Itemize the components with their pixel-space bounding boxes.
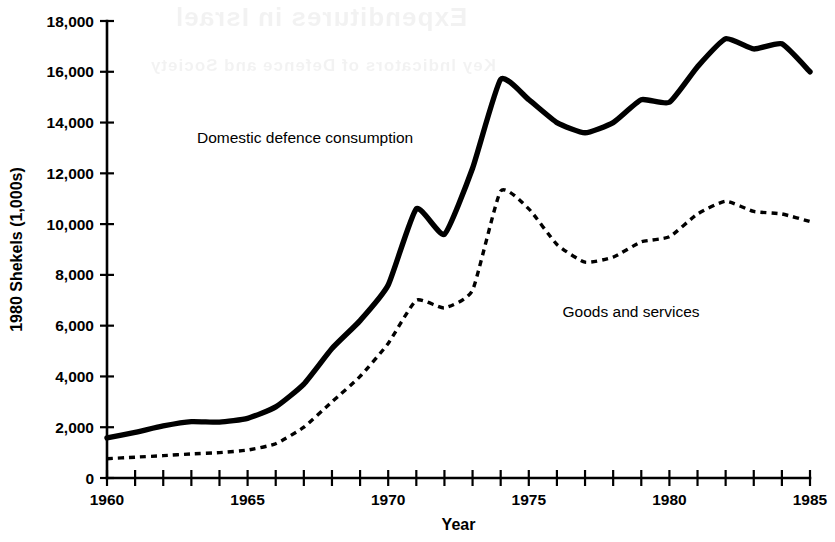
y-axis-tick-label: 12,000 [47,165,94,182]
x-axis: 196019651970197519801985 [90,470,828,508]
y-axis-tick-label: 18,000 [47,13,94,30]
line-chart-plot: 02,0004,0006,0008,00010,00012,00014,0001… [0,0,835,542]
y-axis-tick-label: 14,000 [47,114,94,131]
series-line-goods-and-services [107,190,810,459]
data-series-group [107,39,810,459]
x-axis-tick-label: 1960 [90,491,124,508]
y-axis-tick-label: 0 [85,470,94,487]
y-axis-tick-label: 10,000 [47,216,94,233]
x-axis-tick-label: 1980 [652,491,686,508]
series-line-domestic-defence-consumption [107,39,810,438]
y-axis-title: 1980 Shekels (1,000s) [8,167,25,332]
x-axis-tick-label: 1985 [793,491,828,508]
y-axis: 02,0004,0006,0008,00010,00012,00014,0001… [47,13,114,487]
series-label-goods-and-services: Goods and services [563,303,700,320]
y-axis-tick-label: 8,000 [55,266,94,283]
x-axis-tick-label: 1965 [230,491,265,508]
x-axis-tick-label: 1970 [371,491,405,508]
y-axis-tick-label: 6,000 [55,317,94,334]
y-axis-tick-label: 4,000 [55,368,94,385]
series-label-domestic-defence-consumption: Domestic defence consumption [197,129,413,146]
y-axis-tick-label: 16,000 [47,63,94,80]
y-axis-tick-label: 2,000 [55,419,94,436]
chart-figure: Expenditures in Israel Key Indicators of… [0,0,835,542]
x-axis-tick-label: 1975 [512,491,547,508]
x-axis-title: Year [442,516,476,533]
